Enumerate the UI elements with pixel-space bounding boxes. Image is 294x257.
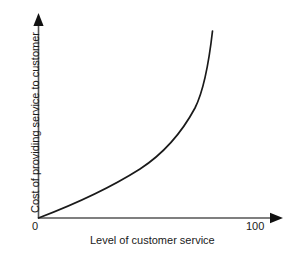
x-axis-arrow-icon [270, 213, 283, 223]
chart-canvas [0, 0, 294, 257]
x-axis-tick-max: 100 [246, 221, 264, 232]
chart-figure: Cost of providing service to customer Le… [0, 0, 294, 257]
y-axis-label: Cost of providing service to customer [30, 23, 44, 213]
x-axis-label: Level of customer service [90, 235, 215, 246]
cost-curve-line [39, 31, 213, 218]
x-axis-tick-origin: 0 [32, 221, 38, 232]
